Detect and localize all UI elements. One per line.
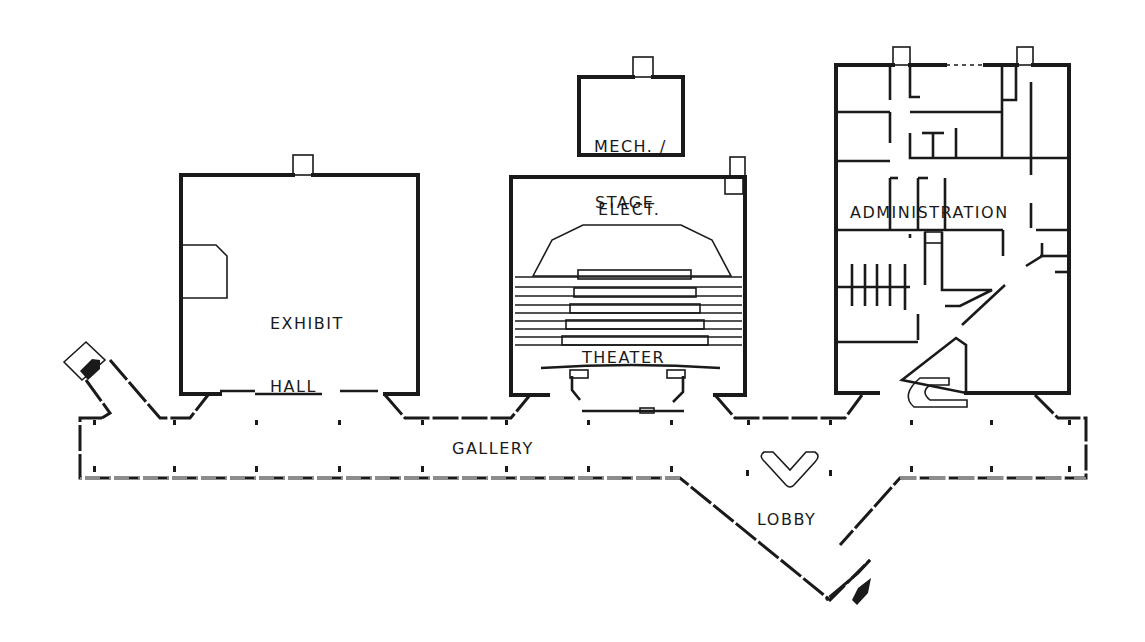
main-entrance-arrow-icon: [852, 578, 871, 605]
west-entrance-arrow-icon: [80, 359, 100, 380]
theater-label: THEATER: [582, 347, 665, 368]
stage-label: STAGE: [595, 192, 654, 213]
theater-seating: [515, 270, 742, 345]
structural-columns: [93, 420, 1071, 476]
mech-elect-line1: MECH. /: [594, 136, 667, 157]
lobby-label: LOBBY: [757, 509, 816, 530]
floor-plan: [0, 0, 1145, 642]
gallery-label: GALLERY: [452, 438, 534, 459]
exhibit-hall-label: EXHIBIT HALL: [270, 271, 344, 418]
exhibit-hall-line2: HALL: [270, 376, 344, 397]
mech-elect-label: MECH. / ELECT.: [594, 94, 667, 241]
administration-label: ADMINISTRATION: [850, 202, 1009, 223]
lobby-planter: [761, 452, 818, 487]
administration-walls: [836, 47, 1069, 407]
exhibit-hall-line1: EXHIBIT: [270, 313, 344, 334]
gallery-envelope: [64, 342, 1086, 600]
